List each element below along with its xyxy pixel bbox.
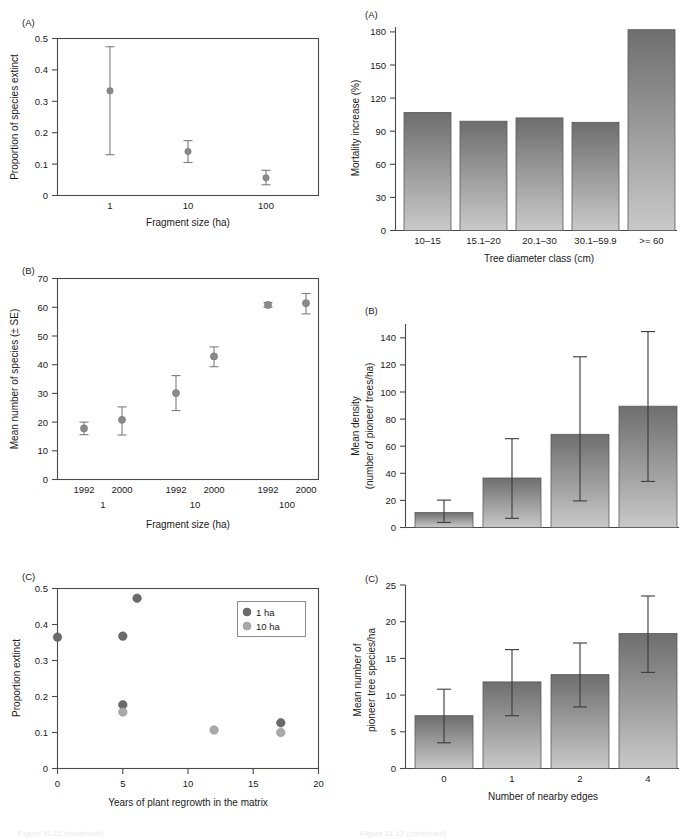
- data-point-group: [184, 141, 193, 163]
- y-axis-right-b: 0 20 40 60 80 100 120 140 Mean density: [350, 332, 406, 533]
- panel-left-b-svg: (B) 0 10 20 30 40 50 60: [0, 252, 343, 552]
- panel-left-c-svg: (C) 0 0.1 0.2 0.3 0.4 0.5 Proportion ex: [0, 556, 343, 838]
- y-axis-left-b: 0 10 20 30 40 50 60 70 Mean number of sp…: [9, 273, 58, 485]
- y-tick-label: 0.2: [35, 691, 48, 702]
- legend-label-10ha: 10 ha: [256, 621, 280, 632]
- data-point-group: [80, 422, 89, 435]
- y-tick-label: 0.3: [35, 655, 48, 666]
- x-tick-label: 100: [258, 200, 274, 211]
- data-point-group: [264, 301, 273, 308]
- legend-left-c[interactable]: 1 ha 10 ha: [238, 602, 306, 637]
- x-group-label: 1: [100, 499, 105, 510]
- x-axis-title: Fragment size (ha): [146, 519, 230, 530]
- y-tick-label: 0: [391, 522, 396, 533]
- data-point: [277, 719, 286, 728]
- panel-tag-right-b: (B): [365, 305, 378, 316]
- data-points-left-a: [106, 47, 271, 185]
- data-point: [185, 148, 191, 154]
- bar: [516, 118, 563, 231]
- x-tick-label: >= 60: [639, 235, 663, 246]
- bars-right-a: [404, 30, 675, 231]
- panel-right-b-svg: (B) 0 20 40 60 80 100: [343, 288, 683, 563]
- legend-item-1ha[interactable]: 1 ha: [243, 607, 275, 618]
- panel-left-a-svg: (A) 0 0.1 0.2 0.3 0.4: [0, 0, 343, 250]
- data-point: [118, 416, 125, 423]
- data-point: [264, 301, 271, 308]
- y-axis-title: Proportion of species extinct: [9, 54, 20, 180]
- x-tick-label: 2000: [111, 484, 132, 495]
- y-tick-label: 25: [385, 580, 396, 591]
- y-tick-label: 20: [385, 495, 396, 506]
- y-tick-label: 0.2: [35, 127, 48, 138]
- y-axis-title: Mean number of species (± SE): [9, 309, 20, 450]
- bar: [628, 30, 675, 231]
- data-point: [277, 728, 286, 737]
- y-axis-right-a: 0 30 60 90 120 150 180 Mortality increas…: [350, 26, 396, 236]
- x-group-label: 10: [190, 499, 201, 510]
- data-point-group: [172, 376, 181, 411]
- y-tick-label: 5: [391, 726, 396, 737]
- y-tick-label: 100: [380, 387, 396, 398]
- y-tick-label: 20: [385, 616, 396, 627]
- panel-left-c: (C) 0 0.1 0.2 0.3 0.4 0.5 Proportion ex: [0, 556, 343, 838]
- series-10ha: [119, 708, 286, 737]
- bar: [460, 121, 507, 230]
- y-tick-label: 20: [37, 417, 48, 428]
- x-tick-label: 20: [313, 778, 324, 789]
- legend-item-10ha[interactable]: 10 ha: [243, 621, 280, 632]
- panel-right-b: (B) 0 20 40 60 80 100: [343, 288, 683, 563]
- x-tick-label: 10: [183, 200, 194, 211]
- x-tick-label: 2: [577, 773, 582, 784]
- data-points-left-b: [80, 294, 311, 436]
- x-tick-label: 1992: [257, 484, 278, 495]
- y-tick-label: 0.1: [35, 727, 48, 738]
- x-axis-left-b: 1992 2000 1992 2000 1992 2000 1 10 100 F…: [73, 484, 316, 530]
- figure-caption-right: Figure 11.12 (continued): [360, 829, 680, 838]
- x-axis-right-a: 10–15 15.1–20 20.1–30 30.1–59.9 >= 60 Tr…: [414, 235, 663, 264]
- x-group-label: 100: [279, 499, 295, 510]
- x-axis-left-a: 1 10 100 Fragment size (ha): [107, 200, 274, 228]
- data-point: [263, 175, 269, 181]
- plot-area-right-c: 0 5 10 15 20 25 Mean number of pioneer t…: [352, 580, 679, 803]
- x-tick-label: 30.1–59.9: [574, 235, 616, 246]
- panel-left-a: (A) 0 0.1 0.2 0.3 0.4: [0, 0, 343, 250]
- y-axis-title-line1: Mean number of: [352, 643, 363, 716]
- panel-right-a: (A) 0 30 60 90 120 150: [343, 0, 683, 285]
- plot-area-left-a: 0 0.1 0.2 0.3 0.4 0.5 Proportion of spec…: [9, 33, 319, 228]
- x-axis-title: Fragment size (ha): [146, 217, 230, 228]
- y-axis-title-line2: pioneer tree species/ha: [366, 628, 377, 732]
- data-point-group: [118, 407, 127, 435]
- plot-area-left-c: 0 0.1 0.2 0.3 0.4 0.5 Proportion extinct: [11, 583, 324, 808]
- x-tick-label: 15.1–20: [466, 235, 500, 246]
- figure-sheet: (A) 0 0.1 0.2 0.3 0.4: [0, 0, 683, 838]
- bar: [404, 112, 451, 230]
- y-tick-label: 0: [43, 190, 48, 201]
- panel-tag-left-b: (B): [22, 265, 35, 276]
- data-point: [53, 633, 62, 642]
- data-point: [119, 708, 128, 717]
- x-tick-label: 4: [645, 773, 650, 784]
- data-point-group: [262, 170, 271, 185]
- panel-right-c: (C) 0 5 10 15 20 25 Mean numbe: [343, 560, 683, 838]
- x-tick-label: 10–15: [414, 235, 440, 246]
- panel-left-b: (B) 0 10 20 30 40 50 60: [0, 252, 343, 552]
- y-tick-label: 0.4: [35, 619, 48, 630]
- x-tick-label: 0: [441, 773, 446, 784]
- panel-right-c-svg: (C) 0 5 10 15 20 25 Mean numbe: [343, 560, 683, 838]
- y-tick-label: 0.3: [35, 96, 48, 107]
- x-tick-label: 1992: [165, 484, 186, 495]
- y-tick-label: 40: [385, 468, 396, 479]
- bars-right-b: [415, 406, 677, 527]
- y-axis-title-line1: Mean density: [350, 396, 361, 455]
- y-tick-label: 0.5: [35, 583, 48, 594]
- x-tick-label: 2000: [203, 484, 224, 495]
- y-tick-label: 40: [37, 359, 48, 370]
- bar: [572, 122, 619, 230]
- x-axis-title: Years of plant regrowth in the matrix: [108, 797, 268, 808]
- panel-tag-right-a: (A): [365, 9, 378, 20]
- plot-area-right-a: 0 30 60 90 120 150 180 Mortality increas…: [350, 26, 677, 264]
- plot-area-right-b: 0 20 40 60 80 100 120 140 Mean density: [350, 324, 679, 533]
- y-tick-label: 30: [375, 192, 386, 203]
- y-tick-label: 50: [37, 331, 48, 342]
- y-tick-label: 70: [37, 273, 48, 284]
